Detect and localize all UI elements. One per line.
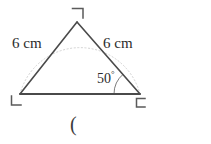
angle-value-text: 50 — [97, 71, 111, 86]
side-length-label-left: 6 cm — [12, 36, 42, 51]
apex-corner-bracket-marker — [73, 9, 84, 19]
side-length-label-right: 6 cm — [103, 36, 133, 51]
angle-arc-50 — [114, 74, 123, 94]
degree-symbol-icon: ° — [111, 69, 115, 79]
triangle-side-left — [20, 22, 77, 94]
angle-label: 50° — [97, 70, 115, 86]
bottom-right-corner-bracket-marker — [137, 99, 146, 108]
caption-text: ( — [70, 114, 77, 134]
geometry-figure: 6 cm 6 cm 50° ( — [0, 0, 211, 144]
bottom-left-corner-bracket-marker — [12, 96, 22, 105]
